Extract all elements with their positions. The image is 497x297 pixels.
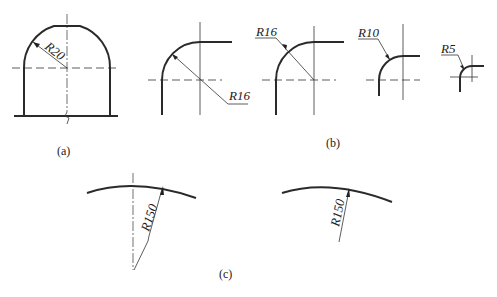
dimension-r10: R10 (357, 25, 379, 40)
dimension-r16-a: R16 (228, 88, 250, 103)
caption-a: (a) (57, 144, 70, 158)
arrowhead (33, 42, 40, 48)
corner-outline (276, 42, 344, 115)
figure-a: R20 (a) (12, 14, 118, 158)
dimension-r5: R5 (440, 41, 456, 56)
dimension-r150-a: R150 (137, 202, 160, 234)
dimension-r150-b: R150 (327, 197, 348, 228)
arrowhead (460, 65, 464, 70)
arrowhead (160, 186, 164, 195)
engineering-radius-dimension-diagram: R20 (a) R16 R16 R10 (0, 0, 497, 297)
figure-b-corner-2: R16 (255, 24, 344, 115)
arrowhead (172, 54, 178, 60)
caption-c: (c) (219, 267, 232, 281)
break-symbol (65, 112, 69, 124)
dimension-r20: R20 (41, 38, 68, 64)
dimension-r16-b: R16 (255, 24, 277, 39)
figure-c-right: R150 (c) (219, 187, 392, 281)
figure-c-left: R150 (87, 173, 196, 270)
corner-outline (379, 56, 420, 96)
large-arc (87, 186, 196, 198)
caption-b: (b) (326, 136, 340, 150)
figure-b-corner-1: R16 (148, 22, 250, 115)
corner-outline (162, 42, 232, 115)
arrowhead (385, 54, 390, 60)
figure-b-corner-4: R5 (b) (326, 41, 484, 150)
figure-b-corner-3: R10 (357, 24, 420, 100)
